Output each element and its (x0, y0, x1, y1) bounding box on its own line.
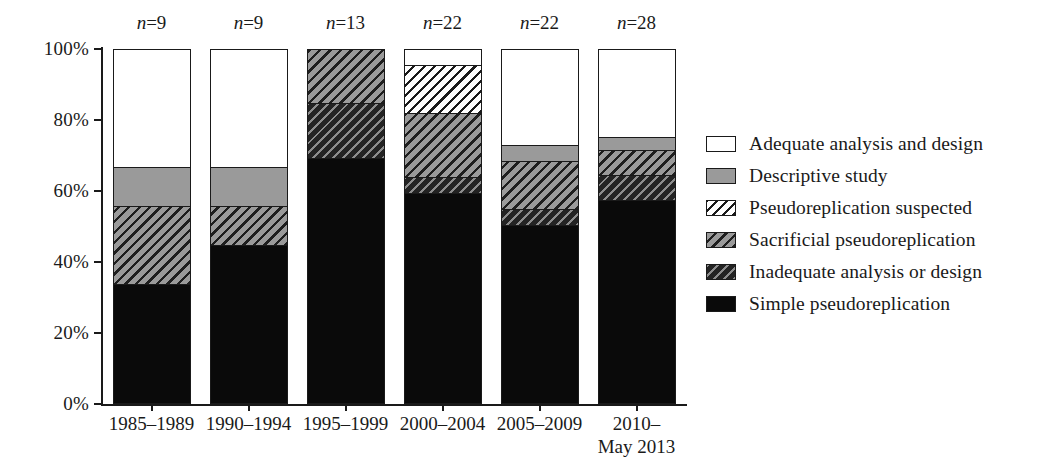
legend-item-label: Simple pseudoreplication (749, 293, 950, 315)
legend-item-label: Adequate analysis and design (749, 133, 983, 155)
bar-segment[interactable] (502, 146, 578, 162)
bar-segment[interactable] (599, 176, 675, 201)
y-axis-tick-mark (94, 48, 101, 50)
bar-segment[interactable] (211, 50, 287, 168)
sample-size-variable: n (423, 12, 433, 33)
stacked-bar[interactable] (598, 49, 676, 404)
legend-swatch-icon (706, 264, 736, 280)
sample-size-variable: n (326, 12, 336, 33)
legend-item[interactable]: Adequate analysis and design (706, 128, 983, 160)
y-axis-tick: 20% (54, 322, 101, 344)
bar-segment[interactable] (599, 138, 675, 151)
bar-group[interactable] (501, 49, 579, 404)
bar-segment[interactable] (114, 207, 190, 285)
bar-segment[interactable] (405, 66, 481, 114)
sample-size-variable: n (234, 12, 244, 33)
stacked-bar-chart-figure: 0%20%40%60%80%100% Adequate analysis and… (0, 0, 1050, 471)
y-axis-tick: 60% (54, 180, 101, 202)
bar-segment[interactable] (599, 50, 675, 138)
bar-segment[interactable] (211, 207, 287, 246)
x-axis-line (101, 404, 687, 406)
legend-item[interactable]: Simple pseudoreplication (706, 288, 983, 320)
legend-item-label: Inadequate analysis or design (749, 261, 982, 283)
legend-item-label: Pseudoreplication suspected (749, 197, 972, 219)
bar-segment[interactable] (405, 50, 481, 66)
x-axis-category-label-line: 2010– (557, 412, 717, 435)
bar-segment[interactable] (599, 151, 675, 176)
y-axis-tick-mark (94, 119, 101, 121)
stacked-bar[interactable] (210, 49, 288, 404)
bar-segment[interactable] (502, 162, 578, 210)
x-axis-tick-mark (539, 404, 541, 411)
chart-legend: Adequate analysis and designDescriptive … (706, 128, 983, 320)
legend-item[interactable]: Sacrificial pseudoreplication (706, 224, 983, 256)
bar-segment[interactable] (502, 50, 578, 146)
x-axis-category-label: 2010–May 2013 (557, 412, 717, 458)
x-axis-tick-mark (636, 404, 638, 411)
legend-swatch-icon (706, 136, 736, 152)
stacked-bar[interactable] (501, 49, 579, 404)
bar-segment[interactable] (308, 159, 384, 403)
bar-segment[interactable] (114, 285, 190, 403)
bar-segment[interactable] (502, 210, 578, 226)
legend-item[interactable]: Pseudoreplication suspected (706, 192, 983, 224)
y-axis-tick-label: 40% (54, 251, 94, 273)
y-axis-tick: 80% (54, 109, 101, 131)
sample-size-value: =28 (626, 12, 656, 33)
bar-group[interactable] (113, 49, 191, 404)
sample-size-value: =22 (529, 12, 559, 33)
bar-segment[interactable] (114, 168, 190, 207)
x-axis-tick-mark (248, 404, 250, 411)
bar-segment[interactable] (114, 50, 190, 168)
bar-group[interactable] (404, 49, 482, 404)
sample-size-value: =9 (243, 12, 263, 33)
bar-segment[interactable] (308, 50, 384, 104)
legend-swatch-icon (706, 200, 736, 216)
bar-group[interactable] (307, 49, 385, 404)
sample-size-variable: n (520, 12, 530, 33)
y-axis-tick-mark (94, 190, 101, 192)
bar-group[interactable] (598, 49, 676, 404)
bar-segment[interactable] (308, 104, 384, 158)
sample-size-variable: n (137, 12, 147, 33)
bar-segment[interactable] (211, 168, 287, 207)
y-axis-tick-mark (94, 332, 101, 334)
bar-group[interactable] (210, 49, 288, 404)
bar-segment[interactable] (405, 178, 481, 194)
stacked-bar[interactable] (113, 49, 191, 404)
bar-segment[interactable] (502, 226, 578, 403)
x-axis-tick-mark (151, 404, 153, 411)
sample-size-variable: n (617, 12, 627, 33)
legend-item[interactable]: Inadequate analysis or design (706, 256, 983, 288)
y-axis-tick-label: 80% (54, 109, 94, 131)
y-axis-tick: 100% (44, 38, 101, 60)
legend-swatch-icon (706, 232, 736, 248)
y-axis-tick-label: 20% (54, 322, 94, 344)
bar-segment[interactable] (211, 246, 287, 403)
stacked-bar[interactable] (404, 49, 482, 404)
legend-swatch-icon (706, 168, 736, 184)
y-axis-tick: 40% (54, 251, 101, 273)
x-axis-tick-mark (345, 404, 347, 411)
legend-item-label: Descriptive study (749, 165, 888, 187)
y-axis-tick-mark (94, 403, 101, 405)
y-axis-tick-label: 100% (44, 38, 94, 60)
bar-segment[interactable] (405, 114, 481, 178)
sample-size-value: =9 (146, 12, 166, 33)
y-axis-tick-label: 60% (54, 180, 94, 202)
bar-segment[interactable] (599, 201, 675, 403)
legend-item[interactable]: Descriptive study (706, 160, 983, 192)
legend-swatch-icon (706, 296, 736, 312)
stacked-bar[interactable] (307, 49, 385, 404)
sample-size-value: =22 (432, 12, 462, 33)
bar-segment[interactable] (405, 194, 481, 403)
x-axis-tick-mark (442, 404, 444, 411)
y-axis-tick-mark (94, 261, 101, 263)
legend-item-label: Sacrificial pseudoreplication (749, 229, 976, 251)
x-axis-category-label-line: May 2013 (557, 435, 717, 458)
sample-size-value: =13 (335, 12, 365, 33)
y-axis-tick-layer: 0%20%40%60%80%100% (0, 0, 101, 471)
sample-size-label: n=28 (577, 12, 697, 34)
